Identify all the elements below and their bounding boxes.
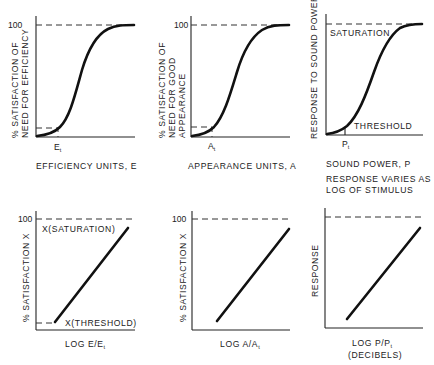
y-axis-label: % SATISFACTION OF NEED FOR GOOD APPEARAN…	[157, 42, 187, 138]
x-axis-label: LOG E/Et	[65, 339, 106, 350]
panel-appearance-sigmoid: 100 At APPEARANCE UNITS, A % SATISFACTIO…	[157, 16, 296, 171]
linear-response-line	[55, 228, 128, 322]
svg-text:% SATISFACTION X: % SATISFACTION X	[178, 233, 188, 322]
svg-text:% SATISFACTION OF: % SATISFACTION OF	[157, 42, 167, 138]
x-axis-label-line-2: (DECIBELS)	[348, 350, 402, 360]
svg-text:RESPONSE: RESPONSE	[310, 244, 320, 297]
svg-text:NEED FOR GOOD: NEED FOR GOOD	[167, 57, 177, 138]
threshold-label: THRESHOLD	[354, 121, 412, 131]
y-axis-label: RESPONSE TO SOUND POWER	[309, 0, 319, 139]
sigmoid-curve	[37, 25, 134, 136]
note-line-1: RESPONSE VARIES AS	[326, 174, 431, 184]
sigmoid-curve	[192, 25, 289, 136]
linear-response-line	[217, 229, 289, 321]
y-axis-label: % SATISFACTION X	[178, 233, 188, 322]
threshold-marker-p: Pt	[342, 139, 350, 150]
x-axis-label: EFFICIENCY UNITS, E	[36, 161, 137, 171]
y-axis-label: % SATISFACTION OF NEED FOR EFFICIENCY	[10, 29, 30, 138]
panel-sound-log: LOG P/Pt (DECIBELS) RESPONSE	[310, 208, 423, 360]
x-axis-label-line-1: LOG P/Pt	[352, 338, 393, 349]
threshold-marker-a: At	[208, 141, 216, 152]
x-axis-label: LOG A/At	[220, 339, 260, 350]
panel-sound-sigmoid: SATURATION THRESHOLD Pt SOUND POWER, P R…	[309, 0, 431, 195]
y-axis-label: % SATISFACTION X	[21, 233, 31, 322]
note-line-2: LOG OF STIMULUS	[326, 185, 413, 195]
diagram-canvas: 100 Et EFFICIENCY UNITS, E % SATISFACTIO…	[0, 0, 434, 365]
saturation-label: SATURATION	[330, 28, 390, 38]
y-tick-100: 100	[18, 214, 33, 224]
svg-text:% SATISFACTION OF: % SATISFACTION OF	[10, 42, 20, 138]
svg-text:APPEARANCE: APPEARANCE	[177, 73, 187, 138]
y-axis-label: RESPONSE	[310, 244, 320, 297]
threshold-label: X(THRESHOLD)	[65, 318, 137, 328]
panel-efficiency-log: 100 X(SATURATION) X(THRESHOLD) LOG E/Et …	[18, 211, 137, 350]
sigmoid-curve	[327, 24, 422, 134]
x-axis-label: APPEARANCE UNITS, A	[188, 161, 296, 171]
saturation-label: X(SATURATION)	[42, 224, 115, 234]
panel-efficiency-sigmoid: 100 Et EFFICIENCY UNITS, E % SATISFACTIO…	[8, 16, 137, 171]
y-tick-100: 100	[172, 214, 187, 224]
svg-text:% SATISFACTION X: % SATISFACTION X	[21, 233, 31, 322]
svg-text:NEED FOR EFFICIENCY: NEED FOR EFFICIENCY	[20, 29, 30, 138]
threshold-marker-e: Et	[54, 142, 62, 153]
y-tick-100: 100	[8, 20, 23, 30]
y-tick-100: 100	[174, 20, 189, 30]
linear-response-line	[347, 228, 420, 319]
x-axis-label: SOUND POWER, P	[326, 159, 411, 169]
svg-text:RESPONSE TO SOUND POWER: RESPONSE TO SOUND POWER	[309, 0, 319, 139]
panel-appearance-log: 100 LOG A/At % SATISFACTION X	[172, 211, 290, 350]
